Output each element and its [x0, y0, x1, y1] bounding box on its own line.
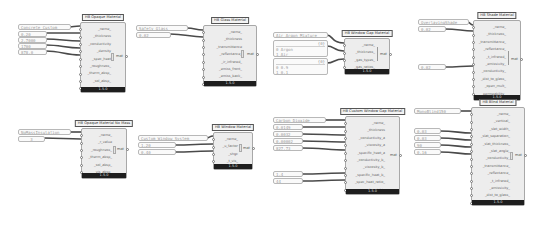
input-grip[interactable]	[344, 130, 347, 133]
input-transmittance[interactable]: _transmittance	[207, 44, 242, 51]
input-r-value[interactable]: _r_value	[85, 139, 112, 146]
input-transmittance[interactable]: _transmittance_	[475, 163, 510, 170]
output-grip[interactable]	[520, 58, 523, 61]
panel-blind-name[interactable]: MonoBlind150	[414, 108, 461, 114]
component-hb-custom-window-gap-material[interactable]: HB Custom Window Gap Material _name_ _th…	[345, 116, 400, 195]
input-t-infrared[interactable]: _t_infrared_	[475, 178, 510, 185]
output-grip[interactable]	[125, 55, 128, 58]
input-shgc[interactable]: _shgc	[217, 151, 238, 158]
input-slat-thickness[interactable]: _slat_thickness_	[475, 141, 510, 148]
panel-slat-separation[interactable]: 0.03	[414, 135, 441, 141]
input-grip[interactable]	[470, 113, 473, 116]
input-viscosity-b[interactable]: _viscosity_b_	[349, 164, 385, 171]
input-grip[interactable]	[470, 180, 473, 183]
input-grip[interactable]	[344, 167, 347, 170]
input-grip[interactable]	[472, 63, 475, 66]
input-grip[interactable]	[344, 174, 347, 177]
panel-custom-gap-thickness[interactable]: 0.0149	[273, 124, 303, 130]
input-slat-separation[interactable]: _slat_separation_	[475, 133, 510, 140]
input-grip[interactable]	[80, 149, 83, 152]
input-dist-to-glass[interactable]: _dist_to_glass_	[477, 76, 506, 83]
input-emissivity[interactable]: _emissivity_	[475, 185, 510, 192]
panel-glass-name[interactable]: Safety Glass	[136, 25, 188, 31]
input-name[interactable]: _name_	[349, 120, 385, 127]
input-grip[interactable]	[470, 150, 473, 153]
panel-spec-heat[interactable]: 878.0	[18, 49, 47, 55]
input-name[interactable]: _name_	[477, 24, 506, 31]
input-name[interactable]: _name_	[84, 26, 111, 33]
output-grip[interactable]	[256, 53, 259, 56]
component-hb-window-gap-material[interactable]: HB Window Gap Material _name_ _thickness…	[344, 38, 390, 75]
input-grip[interactable]	[472, 85, 475, 88]
panel-specific-heat-a[interactable]: 827.73	[273, 145, 303, 151]
input-density[interactable]: _density	[84, 48, 111, 55]
panel-nomass-name[interactable]: NoMassInsulation	[18, 129, 71, 135]
panel-material-name[interactable]: Concrete Custom	[18, 24, 71, 30]
input-grip[interactable]	[212, 146, 215, 149]
input-grip[interactable]	[344, 159, 347, 162]
input-conductivity-a[interactable]: _conductivity_a	[349, 135, 385, 142]
output-mat[interactable]: mat	[380, 52, 387, 56]
input-grip[interactable]	[212, 160, 215, 163]
input-grip[interactable]	[79, 80, 82, 83]
input-grip[interactable]	[202, 53, 205, 56]
input-grip[interactable]	[344, 122, 347, 125]
input-conductivity[interactable]: _conductivity_	[477, 68, 506, 75]
input-grip[interactable]	[470, 121, 473, 124]
input-grip[interactable]	[79, 36, 82, 39]
input-spec-heat-ratio[interactable]: _spec_heat_ratio_	[349, 179, 385, 186]
input-dist-to-glass[interactable]: _dist_to_glass_	[475, 192, 510, 199]
input-reflectance[interactable]: _reflectance_	[207, 51, 242, 58]
input-sol-absp[interactable]: _sol_absp_	[84, 78, 111, 85]
input-conductivity-b[interactable]: _conductivity_b_	[349, 157, 385, 164]
input-grip[interactable]	[470, 128, 473, 131]
input-grip[interactable]	[80, 134, 83, 137]
input-grip[interactable]	[344, 144, 347, 147]
output-grip[interactable]	[252, 147, 255, 150]
input-grip[interactable]	[343, 52, 346, 55]
panel-conductivity[interactable]: 0.16	[414, 149, 441, 155]
input-grip[interactable]	[344, 137, 347, 140]
input-therm-absp[interactable]: _therm_absp_	[85, 154, 112, 161]
input-thickness[interactable]: _thickness	[84, 33, 111, 40]
input-name[interactable]: _name_	[217, 136, 238, 143]
input-grip[interactable]	[472, 26, 475, 29]
input-grip[interactable]	[343, 44, 346, 47]
input-grip[interactable]	[472, 41, 475, 44]
component-hb-glass-material[interactable]: HB Glass Material _name_ _thickness _tra…	[203, 25, 257, 87]
input-viscosity-a[interactable]: _viscosity_a	[349, 142, 385, 149]
input-grip[interactable]	[79, 73, 82, 76]
input-roughness[interactable]: _roughness_	[85, 147, 112, 154]
output-mat[interactable]: mat	[243, 146, 250, 150]
output-mat[interactable]: mat	[117, 147, 124, 151]
input-name[interactable]: _name_	[207, 29, 242, 36]
panel-mol-weight[interactable]: 44	[273, 178, 303, 184]
input-transmittance[interactable]: _transmittance_	[477, 39, 506, 46]
input-grip[interactable]	[472, 48, 475, 51]
input-grip[interactable]	[202, 46, 205, 49]
output-mat[interactable]: mat	[515, 153, 522, 157]
input-slat-angle[interactable]: _slat_angle_	[475, 148, 510, 155]
input-sol-absp[interactable]: _sol_absp_	[85, 162, 112, 169]
panel-shade-conductivity[interactable]: 0.02	[418, 64, 446, 70]
input-grip[interactable]	[202, 39, 205, 42]
input-u-factor[interactable]: _u_factor	[217, 143, 238, 150]
input-t-infrared[interactable]: _t_infrared_	[477, 54, 506, 61]
output-mat[interactable]: mat	[116, 54, 123, 58]
panel-r-value[interactable]: 3	[18, 136, 45, 142]
input-grip[interactable]	[79, 50, 82, 53]
input-grip[interactable]	[212, 153, 215, 156]
input-thickness[interactable]: _thickness	[207, 36, 242, 43]
input-grip[interactable]	[472, 56, 475, 59]
panel-slat-angle[interactable]: 90	[414, 142, 441, 148]
panel-shgc[interactable]: 0.40	[138, 149, 176, 155]
input-grip[interactable]	[344, 181, 347, 184]
input-thickness[interactable]: _thickness	[349, 127, 385, 134]
input-emissivity[interactable]: _emissivity_	[477, 61, 506, 68]
input-conductivity[interactable]: _conductivity_	[475, 155, 510, 162]
output-grip[interactable]	[126, 148, 129, 151]
output-grip[interactable]	[399, 154, 402, 157]
input-grip[interactable]	[202, 76, 205, 79]
output-mat[interactable]: mat	[247, 52, 254, 56]
input-therm-absp[interactable]: _therm_absp_	[84, 70, 111, 77]
